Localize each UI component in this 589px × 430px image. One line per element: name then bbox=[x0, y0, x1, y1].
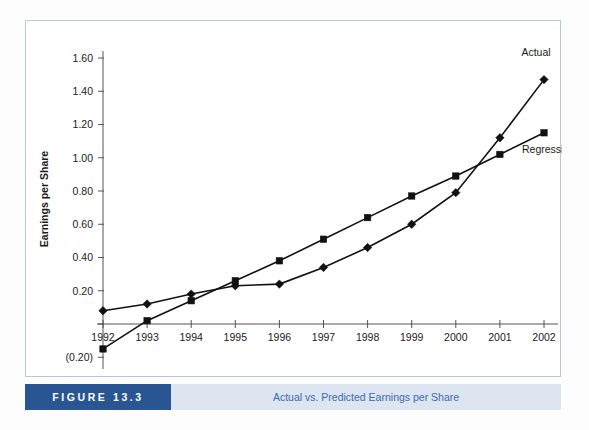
data-point-regression bbox=[453, 173, 459, 179]
series-group bbox=[99, 75, 548, 352]
data-point-actual bbox=[363, 243, 371, 251]
figure-number-tag: FIGURE 13.3 bbox=[25, 384, 171, 410]
x-tick-label: 1998 bbox=[356, 331, 380, 343]
y-tick-label: (0.20) bbox=[66, 351, 93, 363]
series-label-regression: Regression bbox=[522, 143, 562, 155]
y-tick-label: 0.40 bbox=[73, 251, 94, 263]
data-point-regression bbox=[409, 193, 415, 199]
data-point-actual bbox=[99, 307, 107, 315]
x-tick-label: 2002 bbox=[532, 331, 556, 343]
series-label-actual: Actual bbox=[521, 46, 550, 58]
data-point-regression bbox=[320, 236, 326, 242]
data-point-regression bbox=[100, 346, 106, 352]
x-tick-label: 2001 bbox=[488, 331, 512, 343]
x-tick-label: 1997 bbox=[312, 331, 336, 343]
figure-caption-text: Actual vs. Predicted Earnings per Share bbox=[171, 384, 561, 410]
data-point-actual bbox=[319, 263, 327, 271]
y-tick-label: 1.20 bbox=[73, 118, 94, 130]
x-tick-label: 1995 bbox=[224, 331, 248, 343]
series-line-actual bbox=[103, 80, 544, 311]
y-tick-label: 1.40 bbox=[73, 85, 94, 97]
data-point-regression bbox=[232, 278, 238, 284]
chart-frame: Earnings per Share 1.601.401.201.000.800… bbox=[25, 20, 561, 377]
y-axis-title: Earnings per Share bbox=[38, 151, 50, 247]
x-tick-label: 1993 bbox=[135, 331, 159, 343]
x-tick-label: 1994 bbox=[180, 331, 204, 343]
data-point-actual bbox=[275, 280, 283, 288]
y-tick-label: 0.80 bbox=[73, 185, 94, 197]
y-tick-label: 1.00 bbox=[73, 152, 94, 164]
x-tick-label: 1999 bbox=[400, 331, 424, 343]
y-axis-title-group: Earnings per Share bbox=[38, 151, 50, 247]
x-tick-label: 2000 bbox=[444, 331, 468, 343]
x-tick-label: 1996 bbox=[268, 331, 292, 343]
data-point-regression bbox=[188, 298, 194, 304]
data-point-regression bbox=[364, 214, 370, 220]
data-point-regression bbox=[276, 258, 282, 264]
earnings-line-chart: Earnings per Share 1.601.401.201.000.800… bbox=[26, 21, 562, 378]
y-tick-label: 0.60 bbox=[73, 218, 94, 230]
y-tick-label: 0.20 bbox=[73, 285, 94, 297]
data-point-regression bbox=[497, 151, 503, 157]
figure-caption-bar: FIGURE 13.3 Actual vs. Predicted Earning… bbox=[25, 384, 561, 410]
axis-lines-group bbox=[97, 51, 558, 369]
y-tick-label: 1.60 bbox=[73, 52, 94, 64]
data-point-actual bbox=[143, 300, 151, 308]
data-point-actual bbox=[187, 290, 195, 298]
data-point-regression bbox=[541, 130, 547, 136]
x-axis-ticks-group: 1992199319941995199619971998199920002001… bbox=[91, 320, 556, 343]
data-point-regression bbox=[144, 317, 150, 323]
y-axis-ticks-group: 1.601.401.201.000.800.600.400.20(0.20) bbox=[66, 52, 104, 363]
